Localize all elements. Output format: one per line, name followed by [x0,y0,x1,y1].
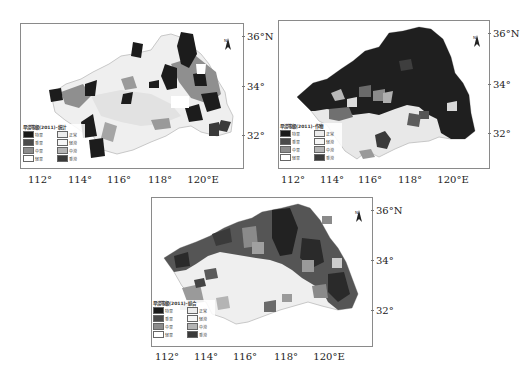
legend-item: 重涝 [187,331,215,338]
legend-label: 重旱 [292,139,300,145]
legend-item: 中旱 [280,146,308,153]
north-arrow-icon: N [224,38,227,43]
lat-tick [371,210,374,211]
legend-title: 旱涝等级(2011)-统计 [23,124,85,130]
legend-item: 中旱 [153,323,181,330]
lat-tick [488,84,491,85]
lat-label: 34° [493,79,511,90]
legend-item: 正常 [57,131,85,138]
north-arrow-icon: N [473,35,476,40]
lon-label: 116° [233,351,257,362]
legend-label: 特旱 [165,308,173,314]
legend-item: 重旱 [153,315,181,322]
lon-label: 112° [28,174,52,185]
lat-tick [488,33,491,34]
legend-item: 中涝 [314,146,342,153]
legend-label: 重旱 [165,316,173,322]
lon-label: 120°E [437,174,468,185]
legend-item: 重涝 [57,155,85,162]
legend-item: 中涝 [57,147,85,154]
lat-tick [371,310,374,311]
lat-label: 32° [376,305,394,316]
lat-tick [488,133,491,134]
legend-label: 轻涝 [199,316,207,322]
legend-item: 轻涝 [187,315,215,322]
legend-item: 轻涝 [57,139,85,146]
legend-label: 中涝 [199,324,207,330]
legend-item: 中旱 [23,147,51,154]
lon-label: 116° [107,174,131,185]
legend-item: 重旱 [280,138,308,145]
legend-item: 特旱 [153,307,181,314]
legend-label: 正常 [199,308,207,314]
legend-item: 轻旱 [280,154,308,161]
legend-label: 轻旱 [35,156,43,162]
lat-tick [371,260,374,261]
legend-label: 特旱 [292,131,300,137]
legend-item: 特旱 [23,131,51,138]
legend: 旱涝等级(2011)-统计 特旱 正常 重旱 轻涝 中旱 中涝 轻旱 重涝 [23,124,85,162]
lat-label: 36°N [376,205,402,216]
lon-label: 120°E [187,174,218,185]
lat-tick [242,135,245,136]
legend-label: 中旱 [35,148,43,154]
legend: 旱涝等级(2011)-综合 特旱 正常 重旱 轻涝 中旱 中涝 轻旱 重涝 [153,300,215,338]
legend-item: 正常 [187,307,215,314]
lon-label: 116° [358,174,382,185]
lat-tick [242,36,245,37]
legend-label: 中涝 [69,148,77,154]
legend-label: 轻涝 [69,140,77,146]
legend-item: 重涝 [314,154,342,161]
lat-label: 32° [247,130,265,141]
lon-label: 112° [155,351,179,362]
lat-label: 36°N [247,31,273,42]
map-frame: 旱涝等级(2011)-作物 特旱 正常 重旱 轻涝 中旱 中涝 轻旱 重涝 N [278,20,490,169]
lon-label: 118° [148,174,172,185]
legend-item: 中涝 [187,323,215,330]
legend-title: 旱涝等级(2011)-综合 [153,300,215,306]
lon-label: 114° [194,351,218,362]
lon-label: 114° [68,174,92,185]
legend-item: 轻旱 [23,155,51,162]
lon-label: 118° [398,174,422,185]
legend-title: 旱涝等级(2011)-作物 [280,123,342,129]
legend-item: 特旱 [280,130,308,137]
legend-label: 轻旱 [165,332,173,338]
legend: 旱涝等级(2011)-作物 特旱 正常 重旱 轻涝 中旱 中涝 轻旱 重涝 [280,123,342,161]
legend-label: 中涝 [326,147,334,153]
legend-label: 重涝 [69,156,77,162]
legend-label: 正常 [69,132,77,138]
map-frame: 旱涝等级(2011)-统计 特旱 正常 重旱 轻涝 中旱 中涝 轻旱 重涝 N [20,23,244,169]
legend-item: 轻涝 [314,138,342,145]
lat-label: 34° [247,81,265,92]
lon-label: 120°E [313,351,344,362]
legend-label: 中旱 [292,147,300,153]
lon-label: 114° [320,174,344,185]
legend-label: 中旱 [165,324,173,330]
legend-label: 特旱 [35,132,43,138]
legend-item: 重旱 [23,139,51,146]
lat-label: 36°N [493,28,519,39]
map-frame: 旱涝等级(2011)-综合 特旱 正常 重旱 轻涝 中旱 中涝 轻旱 重涝 N [151,197,373,347]
legend-label: 轻涝 [326,139,334,145]
legend-label: 轻旱 [292,155,300,161]
legend-label: 正常 [326,131,334,137]
lon-label: 112° [281,174,305,185]
lat-label: 34° [376,255,394,266]
legend-label: 重涝 [199,332,207,338]
lon-label: 118° [274,351,298,362]
north-arrow-icon: N [355,210,358,215]
legend-item: 轻旱 [153,331,181,338]
legend-label: 重涝 [326,155,334,161]
lat-label: 32° [493,128,511,139]
lat-tick [242,86,245,87]
legend-label: 重旱 [35,140,43,146]
legend-item: 正常 [314,130,342,137]
